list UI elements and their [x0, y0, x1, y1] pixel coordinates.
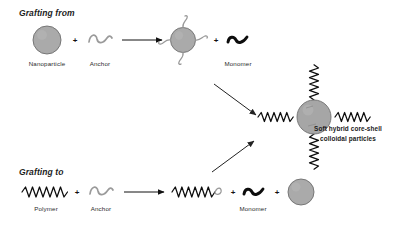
grafting-to-title: Grafting to [19, 167, 64, 177]
monomer-icon-bottom [244, 189, 263, 194]
plus-sign-top-2: + [214, 36, 219, 45]
anchor-icon-bottom [90, 187, 113, 194]
core-shell-particle-icon [258, 65, 370, 169]
anchor-icon-top [89, 35, 112, 42]
product-label-line2: colloidal particles [320, 135, 376, 143]
polymer-icon-bottom [22, 187, 68, 197]
diagonal-up-right-arrow-icon [212, 141, 254, 172]
nanoparticle-label-top: Nanoparticle [29, 60, 66, 67]
figure-canvas: Grafting from Nanoparticle + Anchor + [0, 0, 420, 232]
grafting-mechanism-diagram: Grafting from Nanoparticle + Anchor + [0, 0, 420, 232]
anchor-label-bottom: Anchor [91, 205, 112, 212]
monomer-icon-top [228, 37, 247, 42]
monomer-label-top: Monomer [224, 60, 251, 67]
polymer-anchor-conjugate-icon [172, 187, 221, 197]
plus-sign-bottom-2: + [231, 188, 236, 197]
anchor-label-top: Anchor [90, 60, 111, 67]
monomer-label-bottom: Monomer [239, 205, 266, 212]
nanoparticle-top [33, 26, 61, 54]
product-label-line1: Soft hybrid core-shell [314, 125, 382, 133]
plus-sign-top-1: + [73, 36, 78, 45]
diagonal-down-right-arrow-icon [214, 84, 256, 115]
grafting-from-title: Grafting from [19, 8, 75, 18]
nanoparticle-bottom [288, 179, 314, 205]
polymer-label-bottom: Polymer [34, 205, 58, 212]
plus-sign-bottom-3: + [275, 188, 280, 197]
anchored-nanoparticle-icon [159, 16, 208, 65]
plus-sign-bottom-1: + [75, 188, 80, 197]
